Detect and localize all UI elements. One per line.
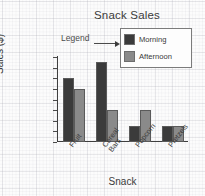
plot-area xyxy=(57,57,189,142)
chart-figure: Snack Sales Legend Morning Afternoon Sal… xyxy=(0,0,205,196)
chart-title: Snack Sales xyxy=(62,9,192,21)
bar-morning-fruit xyxy=(63,78,74,142)
legend-callout-label: Legend xyxy=(61,33,89,43)
legend-label-morning: Morning xyxy=(139,35,166,44)
legend-callout-arrow-icon xyxy=(94,40,121,47)
legend-swatch-morning xyxy=(124,34,135,45)
bar-group xyxy=(63,57,85,142)
y-tick-mark xyxy=(53,142,57,143)
y-axis-title: Sales ($) xyxy=(0,34,5,74)
legend-entry-morning: Morning xyxy=(124,31,188,48)
bar-morning-cereal-bars xyxy=(96,62,107,142)
x-axis-title: Snack xyxy=(57,176,188,187)
